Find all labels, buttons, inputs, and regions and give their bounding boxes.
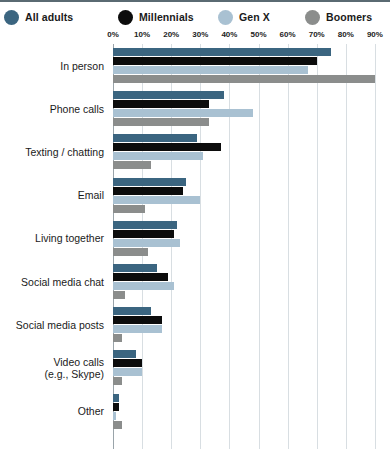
category-label-line: (e.g., Skype) bbox=[0, 368, 104, 380]
bar-gen-x bbox=[113, 152, 203, 160]
x-axis-tick-50: 50% bbox=[250, 30, 266, 39]
bar-millennials bbox=[113, 187, 183, 195]
bar-gen-x bbox=[113, 66, 308, 74]
x-axis-tick-10: 10% bbox=[134, 30, 150, 39]
bar-boomers bbox=[113, 75, 375, 83]
legend-label-gen-x: Gen X bbox=[239, 11, 270, 23]
bar-millennials bbox=[113, 316, 162, 324]
legend-item-boomers: Boomers bbox=[305, 8, 372, 26]
chart-legend: All adults Millennials Gen X Boomers bbox=[0, 0, 390, 28]
category-label: Social media chat bbox=[0, 276, 104, 288]
chart-bar-groups: In personPhone callsTexting / chattingEm… bbox=[0, 44, 390, 449]
bar-stack bbox=[113, 264, 174, 299]
bar-all-adults bbox=[113, 264, 157, 272]
category-label: Email bbox=[0, 189, 104, 201]
legend-label-all-adults: All adults bbox=[25, 11, 73, 23]
chart-plot-area: In personPhone callsTexting / chattingEm… bbox=[0, 44, 390, 449]
legend-item-gen-x: Gen X bbox=[218, 8, 270, 26]
legend-label-millennials: Millennials bbox=[139, 11, 194, 23]
x-axis-tick-70: 70% bbox=[309, 30, 325, 39]
bar-gen-x bbox=[113, 109, 253, 117]
bar-gen-x bbox=[113, 196, 200, 204]
bar-stack bbox=[113, 178, 200, 213]
legend-swatch-all-adults-icon bbox=[4, 10, 19, 25]
bar-millennials bbox=[113, 403, 119, 411]
bar-boomers bbox=[113, 118, 209, 126]
category-label-line: Texting / chatting bbox=[0, 146, 104, 158]
bar-gen-x bbox=[113, 282, 174, 290]
category-label-line: Living together bbox=[0, 232, 104, 244]
bar-gen-x bbox=[113, 368, 142, 376]
bar-stack bbox=[113, 221, 180, 256]
bar-boomers bbox=[113, 161, 151, 169]
category-label-line: Other bbox=[0, 405, 104, 417]
category-label: Living together bbox=[0, 232, 104, 244]
bar-all-adults bbox=[113, 134, 197, 142]
bar-all-adults bbox=[113, 91, 224, 99]
category-label-line: Email bbox=[0, 189, 104, 201]
bar-all-adults bbox=[113, 307, 151, 315]
legend-swatch-gen-x-icon bbox=[218, 10, 233, 25]
bar-stack bbox=[113, 307, 162, 342]
x-axis-tick-40: 40% bbox=[221, 30, 237, 39]
bar-stack bbox=[113, 134, 221, 169]
bar-stack bbox=[113, 350, 142, 385]
bar-stack bbox=[113, 394, 122, 429]
category-label-line: Video calls bbox=[0, 356, 104, 368]
bar-all-adults bbox=[113, 394, 119, 402]
legend-item-all-adults: All adults bbox=[4, 8, 73, 26]
bar-boomers bbox=[113, 291, 125, 299]
legend-item-millennials: Millennials bbox=[118, 8, 194, 26]
legend-swatch-boomers-icon bbox=[305, 10, 320, 25]
bar-gen-x bbox=[113, 239, 180, 247]
bar-boomers bbox=[113, 248, 148, 256]
category-label-line: Social media chat bbox=[0, 276, 104, 288]
bar-all-adults bbox=[113, 350, 136, 358]
legend-label-boomers: Boomers bbox=[326, 11, 372, 23]
category-label: Video calls(e.g., Skype) bbox=[0, 356, 104, 380]
x-axis-tick-90: 90% bbox=[367, 30, 383, 39]
category-label-line: Phone calls bbox=[0, 103, 104, 115]
bar-millennials bbox=[113, 143, 221, 151]
bar-all-adults bbox=[113, 48, 331, 56]
bar-boomers bbox=[113, 377, 122, 385]
bar-millennials bbox=[113, 273, 168, 281]
category-label: In person bbox=[0, 60, 104, 72]
category-label: Other bbox=[0, 405, 104, 417]
category-label: Phone calls bbox=[0, 103, 104, 115]
bar-boomers bbox=[113, 421, 122, 429]
bar-millennials bbox=[113, 359, 142, 367]
bar-stack bbox=[113, 48, 375, 83]
bar-all-adults bbox=[113, 178, 186, 186]
bar-gen-x bbox=[113, 412, 116, 420]
bar-gen-x bbox=[113, 325, 162, 333]
category-label: Social media posts bbox=[0, 319, 104, 331]
bar-stack bbox=[113, 91, 253, 126]
bar-boomers bbox=[113, 205, 145, 213]
legend-swatch-millennials-icon bbox=[118, 10, 133, 25]
chart-x-axis: 0%10%20%30%40%50%60%70%80%90% bbox=[0, 30, 390, 44]
bar-all-adults bbox=[113, 221, 177, 229]
x-axis-tick-80: 80% bbox=[338, 30, 354, 39]
category-label: Texting / chatting bbox=[0, 146, 104, 158]
bar-millennials bbox=[113, 230, 174, 238]
category-label-line: Social media posts bbox=[0, 319, 104, 331]
category-label-line: In person bbox=[0, 60, 104, 72]
bar-millennials bbox=[113, 57, 317, 65]
x-axis-tick-20: 20% bbox=[163, 30, 179, 39]
x-axis-tick-30: 30% bbox=[192, 30, 208, 39]
x-axis-tick-60: 60% bbox=[280, 30, 296, 39]
x-axis-tick-0: 0% bbox=[107, 30, 119, 39]
bar-boomers bbox=[113, 334, 122, 342]
bar-millennials bbox=[113, 100, 209, 108]
